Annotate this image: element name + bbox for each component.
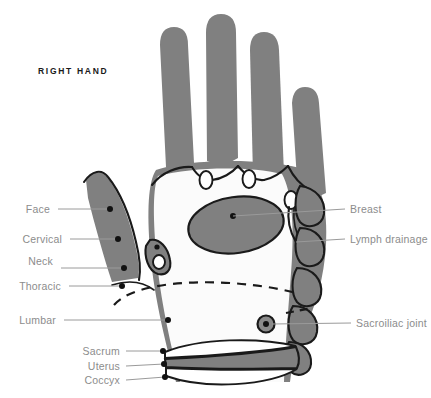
finger-ring <box>250 32 284 179</box>
label-lumbar: Lumbar <box>0 315 56 326</box>
label-breast: Breast <box>350 204 382 215</box>
dot-cervical <box>115 236 121 242</box>
thumb-zone <box>84 172 154 290</box>
wrist-zones <box>165 340 299 384</box>
thumb-shape <box>86 173 139 282</box>
chart-title: RIGHT HAND <box>38 66 108 76</box>
coccyx-arc <box>166 368 297 384</box>
label-thoracic: Thoracic <box>0 281 61 292</box>
web-oval-1 <box>200 171 213 189</box>
label-uterus: Uterus <box>0 361 120 372</box>
finger-index <box>160 27 194 169</box>
label-sacrum: Sacrum <box>0 346 120 357</box>
dot-coccyx <box>162 374 168 380</box>
dot-neck <box>121 265 127 271</box>
reflexology-hand-chart: RIGHT HAND Face Cervical Neck Thoracic L… <box>0 0 431 398</box>
sacroiliac-joint-marker <box>258 316 275 333</box>
dot-thoracic <box>119 283 125 289</box>
dot-uterus <box>161 361 167 367</box>
label-sacroiliac-joint: Sacroiliac joint <box>356 318 427 329</box>
dot-sacrum <box>160 348 166 354</box>
dot-face <box>107 206 113 212</box>
leader-coccyx <box>126 377 165 380</box>
leader-uterus <box>126 364 164 366</box>
label-face: Face <box>0 204 50 215</box>
neck-oval <box>153 255 165 269</box>
web-oval-2 <box>243 170 256 188</box>
neck-dot <box>154 244 159 249</box>
dot-lumbar <box>165 317 171 323</box>
finger-middle <box>206 14 238 164</box>
label-cervical: Cervical <box>0 234 62 245</box>
hand-diagram <box>0 0 431 398</box>
label-lymph-drainage: Lymph drainage <box>350 234 428 245</box>
leader-lines-bottom <box>126 348 168 380</box>
label-coccyx: Coccyx <box>0 375 120 386</box>
label-neck: Neck <box>0 256 53 267</box>
